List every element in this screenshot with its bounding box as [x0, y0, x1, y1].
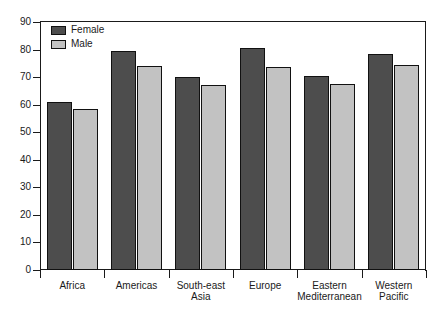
bar-male-4: [330, 84, 355, 270]
y-axis-tick: [33, 187, 40, 188]
legend-swatch-female-icon: [51, 26, 66, 35]
legend-item-male: Male: [51, 38, 104, 50]
legend-item-female: Female: [51, 24, 104, 36]
bar-female-4: [304, 76, 329, 270]
bars-layer: [40, 22, 426, 270]
x-axis-tick: [40, 270, 41, 278]
bar-male-1: [137, 66, 162, 270]
y-axis-tick: [33, 77, 40, 78]
x-axis-tick: [297, 270, 298, 278]
x-axis-tick: [362, 270, 363, 278]
y-axis-tick-label: 50: [1, 127, 31, 137]
legend-swatch-male-icon: [51, 40, 66, 49]
x-axis-tick: [169, 270, 170, 278]
legend-label-male: Male: [71, 39, 93, 49]
x-axis-tick: [233, 270, 234, 278]
legend-label-female: Female: [71, 25, 104, 35]
y-axis-tick-label: 60: [1, 100, 31, 110]
y-axis-tick: [33, 242, 40, 243]
y-axis-tick: [33, 105, 40, 106]
bar-female-1: [111, 51, 136, 270]
chart-legend: Female Male: [51, 24, 104, 52]
bar-male-2: [201, 85, 226, 270]
bar-male-0: [73, 109, 98, 270]
y-axis-tick-label: 0: [1, 265, 31, 275]
bar-male-3: [266, 67, 291, 270]
bar-female-5: [368, 54, 393, 270]
bar-male-5: [394, 65, 419, 270]
y-axis-tick: [33, 215, 40, 216]
x-axis-tick: [426, 270, 427, 278]
y-axis-tick-label: 40: [1, 155, 31, 165]
y-axis-tick: [33, 270, 40, 271]
bar-female-0: [47, 102, 72, 270]
y-axis-tick: [33, 132, 40, 133]
bar-female-3: [240, 48, 265, 270]
y-axis-tick: [33, 22, 40, 23]
bar-chart: 9080706050403020100 AfricaAmericasSouth-…: [0, 0, 438, 316]
y-axis-tick: [33, 50, 40, 51]
y-axis-tick-label: 70: [1, 72, 31, 82]
y-axis-tick-label: 90: [1, 17, 31, 27]
y-axis-tick-label: 30: [1, 182, 31, 192]
x-axis-tick-label: WesternPacific: [349, 280, 438, 302]
bar-female-2: [175, 77, 200, 270]
y-axis-tick: [33, 160, 40, 161]
y-axis-tick-label: 20: [1, 210, 31, 220]
y-axis-tick-label: 80: [1, 45, 31, 55]
y-axis-tick-label: 10: [1, 237, 31, 247]
x-axis-tick: [104, 270, 105, 278]
